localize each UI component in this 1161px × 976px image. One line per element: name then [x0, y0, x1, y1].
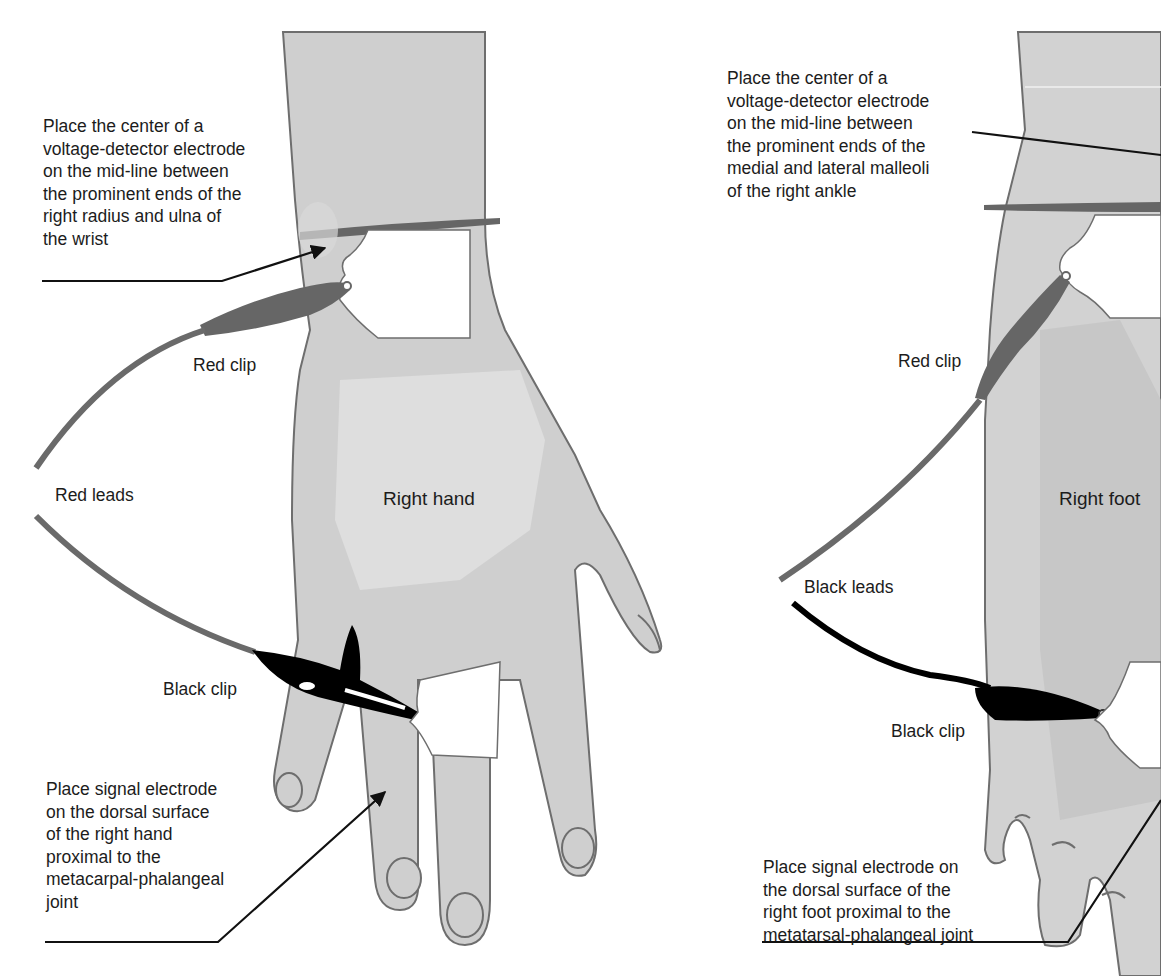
hand-signal-electrode-callout: Place signal electrode on the dorsal sur… — [46, 778, 224, 913]
nail-icon — [276, 773, 302, 807]
right-foot-label: Right foot — [1059, 488, 1140, 511]
red-lead-lower[interactable] — [36, 516, 255, 652]
right-hand-label: Right hand — [383, 488, 475, 511]
nail-icon — [562, 828, 594, 868]
nail-icon — [447, 893, 483, 937]
ankle-electrode-callout: Place the center of a voltage-detector e… — [727, 67, 929, 202]
foot-black-clip-label: Black clip — [891, 720, 965, 743]
foot-red-clip-tip — [1062, 272, 1070, 280]
foot-black-lead[interactable] — [793, 603, 990, 688]
wrist-callout-arrow — [42, 248, 325, 281]
foot-red-clip-label: Red clip — [898, 350, 961, 373]
red-lead-upper[interactable] — [36, 330, 205, 468]
red-clip-tip — [343, 282, 351, 290]
nail-icon — [387, 858, 421, 898]
wrist-electrode-callout: Place the center of a voltage-detector e… — [43, 115, 245, 250]
black-clip-label: Black clip — [163, 678, 237, 701]
black-clip-hole — [299, 682, 315, 690]
foot-red-lead[interactable] — [780, 400, 980, 580]
wrist-electrode-pad[interactable] — [339, 230, 470, 338]
red-clip-label: Red clip — [193, 354, 256, 377]
red-leads-label: Red leads — [55, 484, 134, 507]
foot-signal-electrode-callout: Place signal electrode on the dorsal sur… — [763, 856, 973, 946]
black-leads-label: Black leads — [804, 576, 894, 599]
